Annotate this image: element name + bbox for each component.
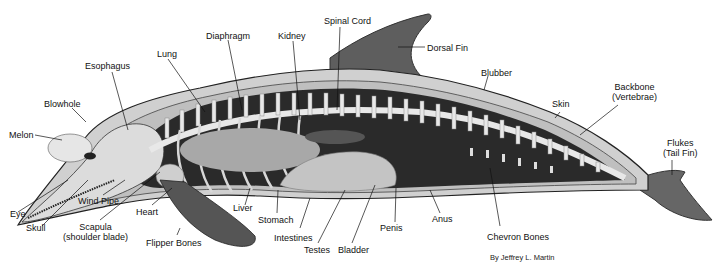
label-anus: Anus bbox=[432, 214, 453, 224]
label-liver: Liver bbox=[233, 203, 253, 213]
label-esophagus: Esophagus bbox=[85, 61, 130, 71]
label-testes: Testes bbox=[304, 245, 330, 255]
label-intestines: Intestines bbox=[274, 233, 313, 243]
label-scapula: Scapula (shoulder blade) bbox=[63, 222, 128, 242]
label-stomach: Stomach bbox=[258, 215, 294, 225]
label-backbone-line2: (Vertebrae) bbox=[612, 92, 657, 102]
label-scapula-line1: Scapula bbox=[63, 222, 128, 232]
label-melon: Melon bbox=[9, 130, 34, 140]
label-flukes-line1: Flukes bbox=[663, 138, 698, 148]
label-backbone-line1: Backbone bbox=[612, 82, 657, 92]
label-lung: Lung bbox=[157, 49, 177, 59]
label-blubber: Blubber bbox=[481, 68, 512, 78]
label-eye: Eye bbox=[10, 209, 26, 219]
label-wind-pipe: Wind Pipe bbox=[78, 196, 119, 206]
label-heart: Heart bbox=[136, 207, 158, 217]
eye bbox=[84, 153, 96, 160]
label-skull: Skull bbox=[26, 223, 46, 233]
flukes bbox=[640, 170, 712, 220]
kidney bbox=[305, 130, 365, 144]
label-flukes: Flukes (Tail Fin) bbox=[663, 138, 698, 158]
label-chevron-bones: Chevron Bones bbox=[487, 232, 549, 242]
label-spinal-cord: Spinal Cord bbox=[324, 16, 371, 26]
label-kidney: Kidney bbox=[278, 31, 306, 41]
label-flipper-bones: Flipper Bones bbox=[146, 238, 202, 248]
label-backbone: Backbone (Vertebrae) bbox=[612, 82, 657, 102]
label-bladder: Bladder bbox=[338, 245, 369, 255]
author-credit: By Jeffrey L. Martin bbox=[490, 253, 554, 262]
label-flukes-line2: (Tail Fin) bbox=[663, 148, 698, 158]
label-scapula-line2: (shoulder blade) bbox=[63, 232, 128, 242]
label-blowhole: Blowhole bbox=[44, 99, 81, 109]
label-diaphragm: Diaphragm bbox=[206, 31, 250, 41]
label-dorsal-fin: Dorsal Fin bbox=[427, 43, 468, 53]
label-skin: Skin bbox=[552, 99, 570, 109]
label-penis: Penis bbox=[380, 223, 403, 233]
